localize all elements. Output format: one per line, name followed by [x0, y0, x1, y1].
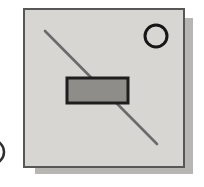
clipped-glyph-arc-circle — [0, 140, 4, 164]
corner-dot-circle — [145, 25, 167, 47]
clipped-glyph-arc — [0, 136, 12, 172]
component-icon-graphic — [25, 10, 182, 165]
component-icon-tile[interactable] — [23, 8, 185, 168]
component-body-rect — [67, 78, 128, 103]
figure-canvas — [0, 0, 204, 187]
